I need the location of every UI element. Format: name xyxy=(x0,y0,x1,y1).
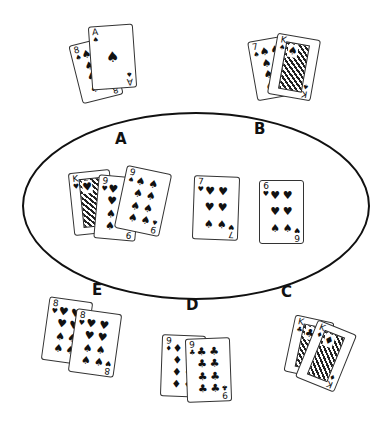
seat-label-b: B xyxy=(254,120,265,138)
playing-card: 8♥ ♥♥♥♥♠♠♠♠ 8♥ xyxy=(68,308,122,378)
playing-card: K♠ ♠ K♠ xyxy=(267,33,321,102)
playing-card: 9♣ ♣♣♣♣♣♣♣♣ 9♣ xyxy=(185,337,232,403)
seat-label-c: C xyxy=(281,283,292,301)
seat-label-a: A xyxy=(115,130,127,148)
playing-card: 7♥ ♥♥♥♥♠♠ 7♥ xyxy=(192,175,240,241)
seat-label-d: D xyxy=(186,296,198,314)
playing-card: 6♥ ♥♥♥♥♠♠ 6♥ xyxy=(259,180,304,244)
playing-card: A♠ ♠ A♠ xyxy=(88,24,137,91)
seat-label-e: E xyxy=(92,281,102,299)
spade-icon: ♠ xyxy=(90,47,134,68)
cut-off-caption xyxy=(0,414,388,424)
